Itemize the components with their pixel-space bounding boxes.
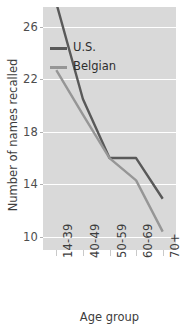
legend-swatch <box>50 66 67 69</box>
series-line-u-s <box>56 7 162 199</box>
y-tick-mark <box>40 184 43 185</box>
legend: U.S.Belgian <box>50 41 116 74</box>
legend-entry: Belgian <box>50 60 116 74</box>
x-tick-label: 14-39 <box>61 224 75 258</box>
y-tick-mark <box>40 27 43 28</box>
x-tick-mark <box>110 250 111 256</box>
x-tick-label: 50-59 <box>115 224 129 258</box>
legend-entry: U.S. <box>50 41 116 55</box>
x-tick-mark <box>56 250 57 256</box>
legend-label: U.S. <box>73 42 96 54</box>
x-tick-label: 70+ <box>168 233 182 258</box>
legend-swatch <box>50 47 67 50</box>
x-tick-mark <box>163 250 164 256</box>
y-tick-label: 14 <box>23 177 38 191</box>
legend-label: Belgian <box>73 61 116 73</box>
x-axis-title: Age group <box>43 310 176 324</box>
y-tick-label: 22 <box>23 72 38 86</box>
y-tick-label: 26 <box>23 20 38 34</box>
y-tick-label: 10 <box>23 230 38 244</box>
series-line-belgian <box>56 70 162 232</box>
x-tick-label: 40-49 <box>88 224 102 258</box>
y-tick-label: 18 <box>23 125 38 139</box>
y-axis-title: Number of names recalled <box>6 30 20 240</box>
line-chart-figure: 1014182226 Number of names recalled Age … <box>0 0 183 334</box>
x-tick-mark <box>83 250 84 256</box>
y-tick-mark <box>40 237 43 238</box>
y-tick-mark <box>40 79 43 80</box>
x-tick-mark <box>136 250 137 256</box>
x-tick-label: 60-69 <box>141 224 155 258</box>
y-tick-mark <box>40 132 43 133</box>
